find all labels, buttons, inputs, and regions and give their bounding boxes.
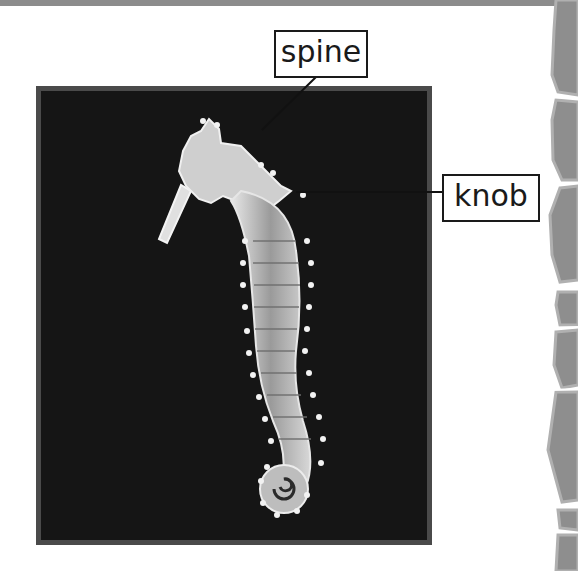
seahorse-illustration [41,91,427,540]
seahorse-photo [41,91,427,540]
seahorse-photo-frame [36,86,432,545]
label-spine-text: spine [281,37,361,71]
label-spine: spine [274,30,368,78]
label-knob: knob [442,174,540,222]
label-knob-text: knob [454,181,528,215]
top-bar [0,0,578,6]
stone-column-decoration [526,0,578,571]
